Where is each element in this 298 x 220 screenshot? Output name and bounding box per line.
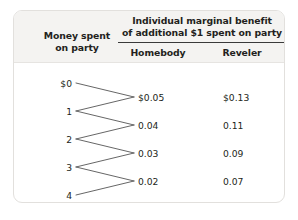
spend-level-1: 1 [28, 106, 72, 117]
spend-level-0: $0 [28, 78, 72, 89]
cell-homebody-1: 0.04 [138, 120, 198, 131]
cell-reveler-2: 0.09 [223, 148, 283, 159]
cell-homebody-0: $0.05 [138, 92, 198, 103]
spend-level-4: 4 [28, 190, 72, 201]
table-body: $0 1 2 3 4 $0.05 0.04 0.03 0.02 $0.13 0.… [14, 63, 284, 203]
row-axis-header-line1: Money spent [44, 30, 110, 41]
spend-level-2: 2 [28, 134, 72, 145]
benefit-group-header-line2: of additional $1 spent on party [117, 27, 285, 39]
cell-reveler-1: 0.11 [223, 120, 283, 131]
spend-level-3: 3 [28, 162, 72, 173]
table-header-band: Money spent on party Individual marginal… [14, 11, 284, 63]
cell-homebody-2: 0.03 [138, 148, 198, 159]
cell-reveler-0: $0.13 [223, 92, 283, 103]
column-header-homebody: Homebody [116, 47, 200, 58]
header-divider-rule [118, 42, 285, 43]
column-header-reveler: Reveler [200, 47, 284, 58]
benefit-table-card: Money spent on party Individual marginal… [13, 10, 285, 203]
cell-reveler-3: 0.07 [223, 176, 283, 187]
cell-homebody-3: 0.02 [138, 176, 198, 187]
benefit-group-header: Individual marginal benefit of additiona… [117, 15, 285, 38]
benefit-group-header-line1: Individual marginal benefit [132, 15, 272, 26]
